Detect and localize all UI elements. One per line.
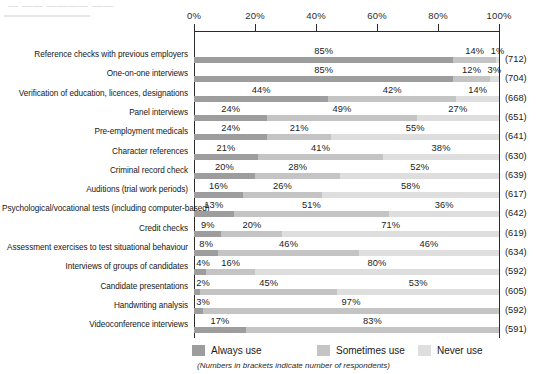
respondent-count: (591) [505,324,527,334]
stacked-bar [194,269,499,275]
stacked-bar [194,134,499,140]
chart-row: Criminal record check20%28%52%(639) [0,162,541,181]
stacked-bar [194,289,499,295]
bar-segment [203,308,499,314]
stacked-bar [194,76,499,82]
bar-segment [267,134,331,140]
segment-value-label: 44% [252,85,271,95]
segment-value-label: 14% [468,85,487,95]
segment-value-label: 58% [401,181,420,191]
x-axis-tick-label: 20% [245,10,265,21]
chart-row: Psychological/vocational tests (includin… [0,200,541,219]
segment-value-label: 49% [332,104,351,114]
respondent-count: (592) [505,305,527,315]
segment-value-label: 26% [273,181,292,191]
chart-row: Pre-employment medicals24%21%55%(641) [0,123,541,142]
segment-value-label: 46% [419,239,438,249]
respondent-count: (641) [505,131,527,141]
segment-value-label: 3% [488,65,502,75]
x-axis-tick-label: 80% [428,10,448,21]
bar-segment [337,289,499,295]
bar-segment [243,192,322,198]
category-label: Verification of education, licences, des… [2,89,188,98]
category-label: Handwriting analysis [2,301,188,310]
x-axis-line [194,31,500,32]
respondent-count: (605) [505,286,527,296]
segment-value-label: 20% [215,162,234,172]
bar-segment [246,327,499,333]
segment-value-label: 45% [259,278,278,288]
bar-segment [194,154,258,160]
segment-value-label: 4% [196,258,210,268]
segment-value-label: 42% [383,85,402,95]
chart-row: Credit checks9%20%71%(619) [0,220,541,239]
bar-segment [340,173,499,179]
respondent-count: (639) [505,170,527,180]
bar-segment [200,289,337,295]
chart-row: Auditions (trial work periods)16%26%58%(… [0,181,541,200]
segment-value-label: 24% [221,123,240,133]
bar-segment [453,76,490,82]
segment-value-label: 97% [342,297,361,307]
chart-row: Candidate presentations2%45%53%(605) [0,278,541,297]
bar-segment [218,250,358,256]
chart-row: Reference checks with previous employers… [0,46,541,65]
bar-segment [194,134,267,140]
respondent-count: (712) [505,54,527,64]
bar-segment [194,231,221,237]
chart-legend: Always useSometimes useNever use [0,344,541,358]
x-axis-tick-label: 40% [306,10,326,21]
segment-value-label: 16% [209,181,228,191]
bar-segment [194,57,453,63]
segment-value-label: 80% [368,258,387,268]
bar-segment [282,231,499,237]
chart-row: Panel interviews24%49%27%(651) [0,104,541,123]
category-label: Videoconference interviews [2,320,188,329]
respondent-count: (651) [505,112,527,122]
category-label: Candidate presentations [2,282,188,291]
legend-item[interactable]: Never use [418,344,483,357]
segment-value-label: 8% [199,239,213,249]
stacked-bar [194,173,499,179]
x-axis-tick-label: 100% [486,10,511,21]
bar-segment [194,192,243,198]
category-label: Interviews of groups of candidates [2,262,188,271]
chart-row: Handwriting analysis3%97%(592) [0,297,541,316]
category-label: Pre-employment medicals [2,127,188,136]
respondent-count: (634) [505,247,527,257]
category-label: One-on-one interviews [2,69,188,78]
bar-segment [331,134,499,140]
segment-value-label: 3% [196,297,210,307]
category-label: Assessment exercises to test situational… [2,243,188,252]
stacked-bar [194,154,499,160]
bar-segment [194,308,203,314]
segment-value-label: 12% [462,65,481,75]
segment-value-label: 51% [302,200,321,210]
segment-value-label: 27% [448,104,467,114]
legend-item[interactable]: Always use [192,344,262,357]
bar-segment [328,96,456,102]
stacked-bar [194,231,499,237]
bar-segment [194,250,218,256]
chart-row: Character references21%41%38%(630) [0,143,541,162]
stacked-bar [194,115,499,121]
category-label: Reference checks with previous employers [2,50,188,59]
category-label: Auditions (trial work periods) [2,185,188,194]
stacked-bar [194,308,499,314]
bar-segment [234,211,390,217]
stacked-bar [194,211,499,217]
bar-segment [194,115,267,121]
x-axis-tick-labels: 0%20%40%60%80%100% [0,10,541,22]
legend-item[interactable]: Sometimes use [317,344,405,357]
respondent-count: (642) [505,208,527,218]
stacked-bar-chart: — —— ———— —— 0%20%40%60%80%100% Referenc… [0,0,541,374]
segment-value-label: 83% [363,316,382,326]
segment-value-label: 2% [196,278,210,288]
bar-segment [267,115,416,121]
segment-value-label: 21% [217,143,236,153]
bar-segment [417,115,499,121]
stacked-bar [194,96,499,102]
segment-value-label: 16% [221,258,240,268]
segment-value-label: 1% [491,46,505,56]
bar-segment [322,192,499,198]
